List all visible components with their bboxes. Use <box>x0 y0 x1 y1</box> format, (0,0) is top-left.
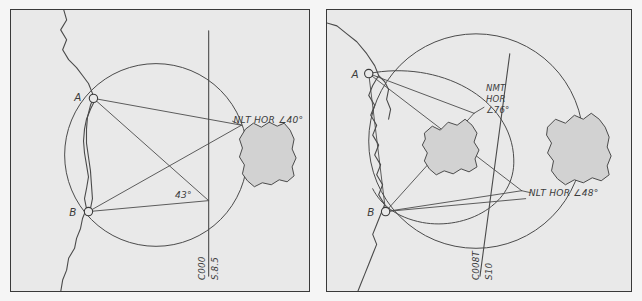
island-shape-near <box>422 119 479 175</box>
left-diagram-svg: A B NLT HOR ∠40° 43° C000 S.8.5 <box>11 10 309 291</box>
point-a-label: A <box>350 68 358 80</box>
coastline-path <box>61 10 95 291</box>
nmt-label-line2: HOR <box>486 94 506 104</box>
nlt-hor-40-label: NLT HOR ∠40° <box>234 115 304 125</box>
point-b-marker <box>84 207 92 215</box>
bearing-line-b-to-e1 <box>88 125 241 211</box>
right-diagram-panel: A B NMT HOR ∠76° NLT HOR ∠48° C008T S10 <box>326 9 632 292</box>
angle-43-label: 43° <box>175 190 192 200</box>
speed-label: S.8.5 <box>210 257 220 280</box>
label-leader-line-nmt <box>474 107 484 113</box>
course-label: C000 <box>197 256 207 280</box>
island-shape-far <box>547 113 612 184</box>
point-a-label: A <box>73 91 81 103</box>
figure-stage: A B NLT HOR ∠40° 43° C000 S.8.5 <box>0 0 642 301</box>
island-shape <box>239 122 296 187</box>
bearing-line-b-to-e2 <box>88 201 208 212</box>
point-b-marker <box>381 207 389 215</box>
point-a-marker <box>89 94 97 102</box>
bearing-line-a-to-e1 <box>369 74 474 114</box>
nmt-label-line1: NMT <box>486 83 506 93</box>
right-diagram-svg: A B NMT HOR ∠76° NLT HOR ∠48° C008T S10 <box>327 10 631 291</box>
bearing-line-a-to-e2 <box>93 98 208 200</box>
bearing-line-a-to-b <box>369 74 386 212</box>
point-b-label: B <box>69 206 76 218</box>
course-label: C008T <box>471 251 481 281</box>
speed-label: S10 <box>484 263 494 280</box>
point-b-label: B <box>367 206 374 218</box>
nlt-hor-48-label: NLT HOR ∠48° <box>529 188 599 198</box>
point-a-marker <box>365 69 373 77</box>
bearing-line-a-to-e1 <box>93 98 241 125</box>
left-diagram-panel: A B NLT HOR ∠40° 43° C000 S.8.5 <box>10 9 310 292</box>
coastline-inner-path <box>86 95 94 208</box>
nmt-label-line3: ∠76° <box>486 105 510 115</box>
coastline-path <box>327 22 385 291</box>
